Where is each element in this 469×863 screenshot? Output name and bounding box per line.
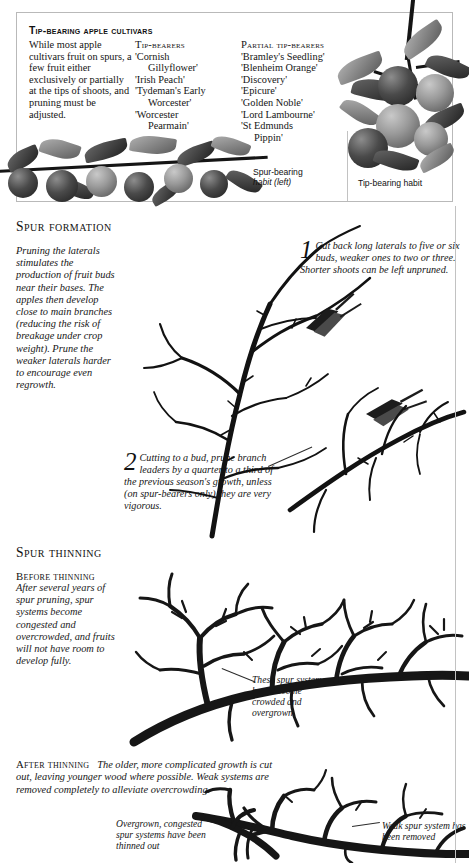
heading-text: Spur formation [16,219,112,234]
annotation-text: Overgrown, congested spur systems have b… [116,818,206,851]
intro-text: While most apple cultivars fruit on spur… [29,39,132,120]
caption-line-1: Spur-bearing [253,167,303,177]
section-heading-spur-thinning: Spur thinning [16,545,102,561]
before-thinning-text: After several years of spur pruning, spu… [16,582,116,667]
caption-tip-bearing-habit: Tip-bearing habit [358,178,450,188]
annotation-overgrown-removed: Overgrown, congested spur systems have b… [116,818,208,851]
caption-line-2: habit (left) [253,177,291,187]
cultivar-item: 'Irish Peach' [135,74,235,86]
cultivar-item: Gillyflower' [135,62,235,74]
cultivar-item: 'Worcester [135,109,235,121]
heading-text: Spur thinning [16,545,102,560]
spur-formation-illustration [120,218,469,538]
annotation-text: These spur systems have become crowded a… [252,674,326,718]
before-thinning-heading: Before thinning [16,570,116,582]
intro-text: Pruning the laterals stimulates the prod… [16,245,115,390]
page-margin-rule [455,206,456,863]
annotation-crowded-spurs: These spur systems have become crowded a… [252,674,336,718]
annotation-text: Weak spur system has been removed [382,820,466,842]
panel-title: Tip-bearing apple cultivars [29,25,153,36]
cultivar-item: Worcester' [135,97,235,109]
panel-title-text: Tip-bearing apple cultivars [29,25,153,36]
cultivar-item: 'Tydeman's Early [135,85,235,97]
annotation-weak-system-removed: Weak spur system has been removed [382,820,466,842]
tip-bearers-heading: Tip-bearers [135,39,235,51]
spur-formation-intro: Pruning the laterals stimulates the prod… [16,245,120,391]
caption-text: Tip-bearing habit [358,178,422,188]
secateurs-lower [364,389,430,428]
tip-bearers-column: Tip-bearers 'Cornish Gillyflower' 'Irish… [135,39,235,132]
before-thinning-block: Before thinning After several years of s… [16,570,116,667]
tip-bearing-habit-photo [330,0,469,200]
intro-column: While most apple cultivars fruit on spur… [29,39,133,120]
after-thinning-heading: After thinning [16,758,89,770]
caption-spur-bearing-habit: Spur-bearing habit (left) [253,167,333,188]
cultivar-item: 'Cornish [135,51,235,63]
book-page: Tip-bearing apple cultivars While most a… [0,0,469,863]
spur-bearing-habit-photo [0,120,270,210]
removed-spur-fragment-illustration [206,812,280,862]
section-heading-spur-formation: Spur formation [16,219,112,235]
